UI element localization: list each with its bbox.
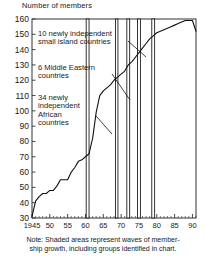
y-tick-label-150: 150 [15, 29, 29, 39]
y-tick-label-120: 120 [15, 75, 29, 85]
chart-plot-area: 30405060708090100110120130140150160 1945… [0, 0, 206, 259]
x-tick-label-1990: 90 [188, 221, 196, 230]
y-tick-label-60: 60 [20, 167, 30, 177]
y-tick-label-80: 80 [20, 136, 30, 146]
x-tick-label-1980: 80 [153, 221, 161, 230]
x-tick-label-1945: 1945 [24, 221, 41, 230]
y-tick-label-130: 130 [15, 60, 29, 70]
shaded-band-wave-1 [86, 19, 89, 218]
annotation-island-countries: 10 newly independentsmall island countri… [38, 29, 113, 46]
y-tick-label-70: 70 [20, 152, 30, 162]
annotation-african-countries: 34 newlyindependentAfricancountries [38, 93, 81, 127]
x-axis-labels: 1945505560657075808590 [24, 221, 197, 230]
shaded-bands [86, 19, 154, 218]
x-tick-label-1955: 55 [63, 221, 71, 230]
shaded-band-wave-5 [152, 19, 155, 218]
x-tick-label-1970: 70 [117, 221, 125, 230]
shaded-band-wave-4 [138, 19, 141, 218]
y-axis-ticks [32, 19, 36, 218]
x-axis-ticks [32, 214, 192, 218]
x-tick-label-1985: 85 [170, 221, 178, 230]
y-tick-label-90: 90 [20, 121, 30, 131]
x-tick-label-1950: 50 [46, 221, 54, 230]
annotation-island-countries-line-2: small island countries [38, 37, 111, 46]
chart-note: Note: Shaded areas represent waves of me… [0, 236, 206, 254]
y-tick-label-40: 40 [20, 198, 30, 208]
annotation-african-countries-line-4: countries [38, 118, 69, 127]
y-tick-label-140: 140 [15, 45, 29, 55]
annotation-labels: 10 newly independentsmall island countri… [38, 29, 113, 127]
y-tick-label-110: 110 [15, 91, 29, 101]
y-tick-label-50: 50 [20, 182, 30, 192]
y-tick-label-160: 160 [15, 14, 29, 24]
x-tick-label-1960: 60 [81, 221, 89, 230]
y-tick-label-100: 100 [15, 106, 29, 116]
leader-line-african-countries [96, 116, 112, 134]
annotation-middle-eastern-line-2: countries [38, 71, 69, 80]
chart-figure: Number of members 3040506070809010011012… [0, 0, 206, 259]
shaded-band-wave-3 [127, 19, 130, 218]
shaded-band-wave-2 [115, 19, 117, 218]
x-tick-label-1975: 75 [135, 221, 143, 230]
x-tick-label-1965: 65 [99, 221, 107, 230]
note-line-2: ship growth, including groups identified… [0, 245, 206, 254]
y-axis-labels: 30405060708090100110120130140150160 [15, 14, 29, 223]
note-line-1: Note: Shaded areas represent waves of me… [0, 236, 206, 245]
